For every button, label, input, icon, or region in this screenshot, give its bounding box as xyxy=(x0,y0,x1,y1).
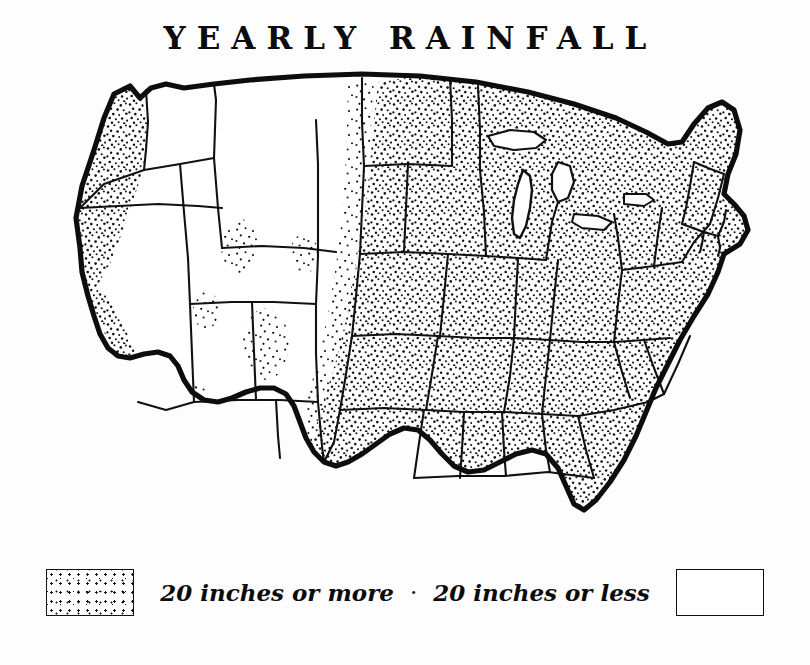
wet-highland-sierra-nevada xyxy=(180,382,212,438)
legend-swatch-more xyxy=(46,569,134,616)
legend-label-more: 20 inches or more xyxy=(160,579,394,606)
legend-separator-dot: · xyxy=(394,581,433,604)
wet-highland-wasatch xyxy=(193,291,219,329)
wet-highland-colorado-rockies xyxy=(243,308,289,380)
map-svg xyxy=(18,58,792,550)
map-legend: 20 inches or more · 20 inches or less xyxy=(0,556,810,628)
legend-label-less: 20 inches or less xyxy=(433,579,650,606)
legend-swatch-less xyxy=(676,569,764,616)
rainfall-map-page: YEARLY RAINFALL xyxy=(0,0,810,665)
lake-superior xyxy=(488,130,546,150)
wet-highland-wyoming-east xyxy=(290,234,318,274)
page-title: YEARLY RAINFALL xyxy=(0,20,810,56)
us-rainfall-map xyxy=(18,58,792,550)
